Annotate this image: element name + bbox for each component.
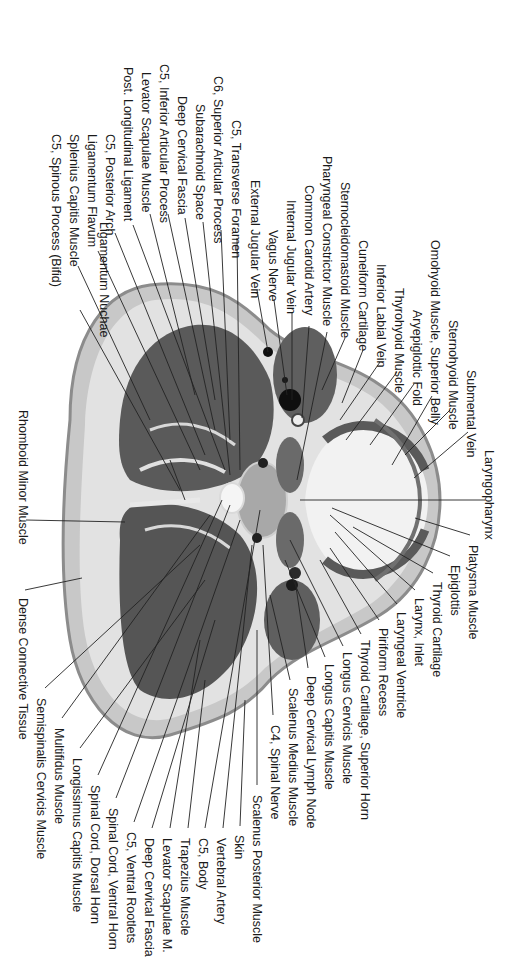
label-spinal-cord-dorsal-horn: Spinal Cord, Dorsal Horn xyxy=(88,785,101,924)
label-common-carotid-artery: Common Carotid Artery xyxy=(302,185,315,316)
label-deep-cervical-lymph-node: Deep Cervical Lymph Node xyxy=(304,676,317,828)
label-longissimus-capitis: Longissimus Capitis Muscle xyxy=(70,758,83,912)
label-thyrohyoid-muscle: Thyrohyoid Muscle xyxy=(392,288,405,393)
label-pharyngeal-constrictor: Pharyngeal Constrictor Muscle xyxy=(320,156,333,326)
label-sternocleidomastoid: Sternocleidomastoid Muscle xyxy=(338,182,351,338)
label-ligamentum-flavum: Ligamentum Flavum xyxy=(85,134,98,247)
label-thyroid-cartilage: Thyroid Cartilage xyxy=(430,582,443,677)
label-dense-connective-tissue: Dense Connective Tissue xyxy=(16,598,29,740)
label-submental-vein: Submental Vein xyxy=(464,370,477,458)
label-subarachnoid-space: Subarachnoid Space xyxy=(193,104,206,220)
label-levator-scapulae-2: Levator Scapulae M. xyxy=(160,838,173,953)
internal-jugular-vein-shape xyxy=(279,389,301,411)
label-laryngopharynx: Laryngopharynx xyxy=(482,450,495,540)
label-c4-spinal-nerve: C4, Spinal Nerve xyxy=(268,725,281,820)
label-deep-cervical-fascia-1: Deep Cervical Fascia xyxy=(175,96,188,215)
label-platysma-muscle: Platysma Muscle xyxy=(466,545,479,639)
label-multifidus: Multifidus Muscle xyxy=(52,728,65,824)
label-omohyoid-superior-belly: Omohyoid Muscle, Superior Belly xyxy=(428,240,441,425)
label-trapezius-muscle: Trapezius Muscle xyxy=(178,838,191,936)
label-laryngeal-ventricle: Laryngeal Ventricle xyxy=(394,612,407,718)
label-scalenus-medius: Scalenus Medius Muscle xyxy=(286,688,299,826)
label-scalenus-posterior: Scalenus Posterior Muscle xyxy=(250,795,263,943)
label-semispinalis-cervicis: Semispinalis Cervicis Muscle xyxy=(34,698,47,859)
label-c5-inferior-articular: C5, Inferior Articular Process xyxy=(157,64,170,223)
spinal-cord xyxy=(220,483,244,513)
label-c6-superior-articular: C6, Superior Articular Process xyxy=(211,76,224,243)
label-vertebral-artery: Vertebral Artery xyxy=(214,838,227,924)
label-longus-cervicis: Longus Cervicis Muscle xyxy=(340,652,353,784)
label-post-longitudinal-ligament: Post. Longitudinal Ligament xyxy=(121,67,134,221)
label-internal-jugular-vein: Internal Jugular Vein xyxy=(284,200,297,314)
label-skin: Skin xyxy=(232,835,245,859)
label-inferior-labial-vein: Inferior Labial Vein xyxy=(374,264,387,368)
label-external-jugular-vein: External Jugular Vein xyxy=(248,180,261,298)
label-levator-scapulae-1: Levator Scapulae Muscle xyxy=(139,72,152,212)
label-spinal-cord-ventral-horn: Spinal Cord, Ventral Horn xyxy=(106,808,119,950)
label-larynx-inlet: Larynx, Inlet xyxy=(412,598,425,666)
label-longus-capitis: Longus Capitis Muscle xyxy=(322,664,335,790)
label-vagus-nerve: Vagus Nerve xyxy=(266,230,279,301)
label-deep-cervical-fascia-2: Deep Cervical Fascia xyxy=(142,838,155,957)
label-thyroid-cartilage-superior-horn: Thyroid Cartilage, Superior Horn xyxy=(358,640,371,820)
label-c5-spinous-process: C5, Spinous Process (Bifid) xyxy=(49,134,62,287)
label-cuneiform-cartilage: Cuneiform Cartilage xyxy=(356,240,369,351)
label-c5-body: C5, Body xyxy=(196,838,209,889)
label-piriform-recess: Piriform Recess xyxy=(376,628,389,716)
label-epiglottis: Epiglottis xyxy=(448,565,461,616)
label-rhomboid-minor: Rhomboid Minor Muscle xyxy=(16,410,29,545)
label-sternohyoid-muscle: Sternohyoid Muscle xyxy=(446,320,459,430)
label-aryepiglottic-fold: Aryepiglottic Fold xyxy=(410,310,423,406)
label-c5-transverse-foramen: C5, Transverse Foramen xyxy=(229,120,242,258)
label-c5-posterior-arch: C5, Posterior Arch xyxy=(103,134,116,235)
label-c5-ventral-rootlets: C5, Ventral Rootlets xyxy=(124,832,137,943)
label-splenius-capitis: Splenius Capitis Muscle xyxy=(67,134,80,267)
leader-line-skin xyxy=(240,700,245,826)
sternocleidomastoid-lower xyxy=(264,580,320,660)
